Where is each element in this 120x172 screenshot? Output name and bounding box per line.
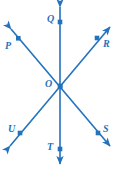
geometry-canvas [0,0,120,172]
point-label-t: T [47,142,53,152]
point-marker-q [58,20,63,25]
point-label-p: P [5,41,11,51]
point-marker-t [58,147,63,152]
point-marker-r [95,36,100,41]
point-marker-u [18,131,23,136]
point-label-r: R [103,39,110,49]
geometry-diagram: P Q R O U T S [0,0,120,172]
point-marker-s [96,131,101,136]
point-label-o: O [45,79,52,89]
point-label-s: S [103,124,109,134]
point-label-u: U [8,124,15,134]
point-label-q: Q [47,14,54,24]
point-marker-p [16,36,21,41]
point-marker-o [58,84,63,89]
